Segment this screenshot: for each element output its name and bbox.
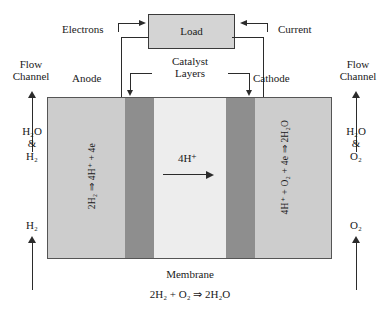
left-outlet-arrowhead-icon: [28, 91, 36, 98]
current-connector-horizontal: [245, 23, 268, 24]
left-circuit-wire-horizontal: [121, 37, 149, 38]
left-circuit-wire-vertical: [121, 37, 122, 97]
proton-arrowhead-icon: [206, 171, 214, 179]
left-inlet-label: H₂: [8, 219, 56, 231]
membrane-layer: [154, 98, 226, 258]
catalyst-left-leader-vertical: [130, 73, 131, 91]
fuel-cell-diagram: Load Electrons Current 4e⁻ 4e⁻ Catalyst …: [0, 0, 388, 332]
catalyst-left-leader-horizontal: [130, 73, 152, 74]
right-outlet-label: H₂O & O₂: [332, 125, 380, 162]
left-inlet-arrow-shaft: [32, 242, 33, 290]
left-flow-channel-line2: Channel: [3, 70, 59, 82]
current-label: Current: [278, 23, 312, 35]
right-inlet-arrowhead-icon: [352, 236, 360, 243]
electrons-connector-vertical: [118, 23, 119, 32]
right-outlet-arrowhead-icon: [352, 91, 360, 98]
cathode-catalyst-layer: [226, 98, 255, 258]
membrane-label: Membrane: [140, 268, 240, 280]
cathode-gas-diffusion-layer: [255, 98, 331, 258]
anode-catalyst-layer: [125, 98, 154, 258]
electrons-arrowhead-icon: [139, 20, 146, 26]
anode-reaction-equation: 2H₂ ⇒ 4H⁺ + 4e: [87, 143, 98, 209]
right-inlet-arrow-shaft: [356, 242, 357, 290]
right-circuit-wire-vertical: [263, 37, 264, 97]
right-inlet-label: O₂: [332, 219, 380, 231]
catalyst-layers-label-line2: Layers: [152, 67, 228, 79]
proton-arrow-shaft: [163, 174, 207, 175]
right-flow-channel-label: Flow Channel: [330, 58, 386, 83]
cathode-reaction-equation: 4H⁺ + O₂ + 4e ⇒ 2H₂O: [280, 120, 291, 215]
left-flow-channel-line1: Flow: [3, 58, 59, 70]
left-flow-channel-label: Flow Channel: [3, 58, 59, 83]
right-outlet-line2: &: [332, 137, 380, 149]
left-outlet-label: H₂O & H₂: [8, 125, 56, 162]
overall-reaction-equation: 2H₂ + O₂ ⇒ 2H₂O: [110, 288, 270, 300]
anode-label: Anode: [72, 72, 101, 84]
left-outlet-line2: &: [8, 137, 56, 149]
right-flow-channel-line2: Channel: [330, 70, 386, 82]
catalyst-layers-label-line1: Catalyst: [152, 55, 228, 67]
load-label: Load: [180, 25, 203, 37]
current-arrowhead-icon: [240, 20, 247, 26]
right-flow-channel-line1: Flow: [330, 58, 386, 70]
left-outlet-line1: H₂O: [8, 125, 56, 137]
cathode-label: Cathode: [253, 72, 290, 84]
proton-label: 4H⁺: [178, 152, 197, 164]
catalyst-layers-label: Catalyst Layers: [152, 55, 228, 80]
electrons-connector-horizontal: [118, 23, 140, 24]
catalyst-right-arrowhead-icon: [246, 90, 252, 96]
current-connector-vertical: [267, 23, 268, 32]
load-box: Load: [148, 14, 235, 49]
catalyst-left-arrowhead-icon: [127, 90, 133, 96]
catalyst-right-leader-horizontal: [228, 73, 250, 74]
right-circuit-wire-horizontal: [232, 37, 264, 38]
electrons-label: Electrons: [62, 23, 104, 35]
left-inlet-arrowhead-icon: [28, 236, 36, 243]
right-outlet-line1: H₂O: [332, 125, 380, 137]
catalyst-right-leader-vertical: [249, 73, 250, 91]
right-outlet-line3: O₂: [332, 150, 380, 162]
left-outlet-line3: H₂: [8, 150, 56, 162]
